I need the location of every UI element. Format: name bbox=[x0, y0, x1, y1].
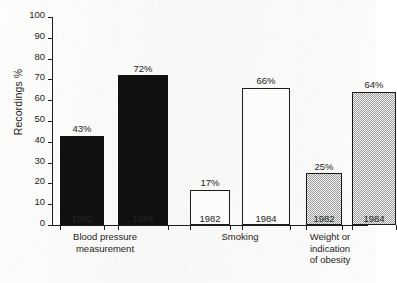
y-axis-tick-mark bbox=[48, 121, 53, 122]
y-axis-tick-label: 60 bbox=[34, 93, 45, 103]
x-axis-tick-label: 1984 bbox=[132, 214, 153, 224]
y-axis-tick-mark bbox=[48, 38, 53, 39]
y-axis-tick-label: 20 bbox=[34, 176, 45, 186]
x-axis-tick-label: 1982 bbox=[199, 214, 220, 224]
y-axis-tick-mark bbox=[48, 163, 53, 164]
y-axis-tick-label: 0 bbox=[40, 218, 45, 228]
y-axis-tick-mark bbox=[48, 79, 53, 80]
y-axis-tick-mark bbox=[48, 225, 53, 226]
y-axis-tick-label: 30 bbox=[34, 156, 45, 166]
y-axis-tick-mark bbox=[48, 204, 53, 205]
x-axis-tick-label: 1984 bbox=[255, 214, 276, 224]
x-axis-tick-label: 1982 bbox=[71, 214, 92, 224]
y-axis-tick-label: 100 bbox=[29, 10, 45, 20]
bar: 64% bbox=[352, 92, 396, 225]
bar-value-label: 64% bbox=[364, 80, 383, 90]
y-axis-tick-label: 50 bbox=[34, 114, 45, 124]
y-axis-tick-mark bbox=[48, 142, 53, 143]
y-axis-tick-label: 90 bbox=[34, 31, 45, 41]
y-axis-tick-label: 10 bbox=[34, 197, 45, 207]
y-axis-tick-label: 70 bbox=[34, 72, 45, 82]
y-axis-tick-label: 40 bbox=[34, 135, 45, 145]
x-axis-tick-mark bbox=[242, 225, 243, 230]
x-axis-tick-mark bbox=[306, 225, 307, 230]
bar-value-label: 72% bbox=[133, 64, 152, 74]
x-axis-tick-mark bbox=[118, 225, 119, 230]
x-axis-tick-mark bbox=[168, 225, 169, 230]
group-label: Blood pressure measurement bbox=[73, 231, 137, 254]
bar-value-label: 43% bbox=[72, 124, 91, 134]
x-axis-tick-mark bbox=[352, 225, 353, 230]
y-axis-title: Recordings % bbox=[12, 52, 24, 152]
group-label: Weight or indication of obesity bbox=[307, 231, 353, 266]
bar: 43% bbox=[60, 136, 104, 225]
x-axis-tick-mark bbox=[190, 225, 191, 230]
bar: 72% bbox=[118, 75, 168, 225]
x-axis-tick-mark bbox=[230, 225, 231, 230]
y-axis-tick-mark bbox=[48, 100, 53, 101]
y-axis-tick-mark bbox=[48, 59, 53, 60]
bar-value-label: 25% bbox=[314, 162, 333, 172]
x-axis-tick-mark bbox=[342, 225, 343, 230]
y-axis-tick-label: 80 bbox=[34, 52, 45, 62]
x-axis-tick-label: 1982 bbox=[313, 214, 334, 224]
x-axis-tick-mark bbox=[60, 225, 61, 230]
plot-area: 1009080706050403020100 43%72%17%66%25%64… bbox=[52, 17, 368, 225]
group-label: Smoking bbox=[222, 231, 259, 243]
bar-value-label: 66% bbox=[256, 76, 275, 86]
x-axis-tick-label: 1984 bbox=[363, 214, 384, 224]
y-axis-tick-mark bbox=[48, 17, 53, 18]
bar: 66% bbox=[242, 88, 290, 225]
y-axis-tick-mark bbox=[48, 183, 53, 184]
x-axis-tick-mark bbox=[104, 225, 105, 230]
x-axis-line bbox=[52, 225, 368, 226]
bar-value-label: 17% bbox=[200, 178, 219, 188]
x-axis-tick-mark bbox=[290, 225, 291, 230]
